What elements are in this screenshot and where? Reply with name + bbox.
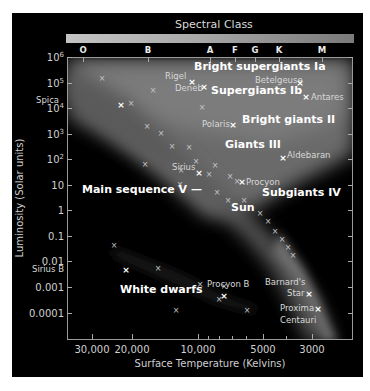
spectral-class-tick — [148, 57, 149, 62]
x-minor-tick — [232, 336, 233, 339]
star-label: Rigel — [165, 71, 186, 81]
y-tick — [67, 261, 72, 262]
y-tick — [67, 287, 72, 288]
y-tick-right — [348, 159, 353, 160]
star-label: Deneb — [175, 83, 203, 93]
star-label: Barnard's — [265, 277, 306, 287]
spectral-class-o: O — [79, 45, 86, 55]
y-tick — [67, 134, 72, 135]
luminosity-class-label: White dwarfs — [120, 283, 203, 296]
x-tick-label: 3000 — [299, 344, 324, 355]
star-label: Spica — [36, 95, 59, 105]
x-tick-label: 10,000 — [181, 344, 216, 355]
spectral-class-k: K — [276, 45, 283, 55]
star-marker-icon: × — [290, 252, 297, 260]
star-marker-icon: × — [155, 265, 162, 273]
x-tick — [132, 334, 133, 339]
y-tick — [67, 108, 72, 109]
star-marker-icon: × — [238, 178, 246, 186]
x-minor-tick — [219, 336, 220, 339]
star-marker-icon: × — [265, 218, 272, 226]
star-marker-icon: × — [257, 210, 264, 218]
star-marker-icon: × — [302, 93, 310, 101]
y-tick-right — [348, 108, 353, 109]
star-marker-icon: × — [212, 162, 219, 170]
y-tick-label: 105 — [47, 77, 64, 89]
y-tick — [67, 313, 72, 314]
x-axis-title: Surface Temperature (Kelvins) — [135, 358, 286, 369]
star-marker-icon: × — [128, 100, 135, 108]
y-tick — [67, 236, 72, 237]
star-label: Antares — [311, 92, 344, 102]
star-marker-icon: × — [229, 121, 237, 129]
spectral-class-a: A — [207, 45, 214, 55]
star-marker-icon: × — [111, 242, 118, 250]
y-tick — [67, 83, 72, 84]
star-marker-icon: × — [150, 87, 157, 95]
star-marker-icon: × — [206, 171, 213, 179]
star-marker-icon: × — [117, 101, 125, 109]
x-tick-label: 30,000 — [75, 344, 110, 355]
x-minor-tick — [286, 336, 287, 339]
y-tick-label: 0.001 — [35, 282, 64, 293]
star-marker-icon: × — [195, 169, 203, 177]
star-label: Centauri — [280, 315, 316, 325]
x-minor-tick — [246, 336, 247, 339]
star-label: Sirius B — [32, 264, 64, 274]
star-marker-icon: × — [272, 228, 279, 236]
star-marker-icon: × — [99, 75, 106, 83]
spectral-class-b: B — [145, 45, 151, 55]
x-tick — [312, 334, 313, 339]
star-marker-icon: × — [169, 143, 176, 151]
y-tick — [67, 185, 72, 186]
star-marker-icon: × — [214, 189, 221, 197]
luminosity-class-label: Giants III — [225, 138, 281, 151]
star-label: Aldebaran — [287, 150, 331, 160]
x-tick-label: 5000 — [250, 344, 275, 355]
star-label: Star — [287, 288, 304, 298]
x-tick — [198, 334, 199, 339]
spectral-class-title: Spectral Class — [175, 18, 253, 31]
star-marker-icon: × — [200, 83, 208, 91]
star-marker-icon: × — [305, 290, 313, 298]
x-tick-label: 20,000 — [115, 344, 150, 355]
y-tick — [67, 159, 72, 160]
star-marker-icon: × — [227, 173, 234, 181]
star-marker-icon: × — [142, 161, 149, 169]
star-marker-icon: × — [199, 104, 206, 112]
luminosity-class-label: Supergiants Ib — [211, 84, 302, 97]
y-tick-label: 1 — [58, 205, 64, 216]
x-minor-tick — [208, 336, 209, 339]
y-axis-title: Luminosity (Solar units) — [14, 139, 25, 258]
y-tick-label: 106 — [47, 51, 64, 63]
star-marker-icon: × — [279, 154, 287, 162]
y-tick-right — [348, 83, 353, 84]
spectral-color-bar — [66, 34, 354, 43]
star-label: Polaris — [202, 119, 230, 129]
spectral-class-m: M — [318, 45, 326, 55]
y-tick-label: 0.1 — [48, 231, 64, 242]
y-tick-right — [348, 287, 353, 288]
y-tick-right — [348, 236, 353, 237]
star-marker-icon: × — [244, 307, 251, 315]
star-marker-icon: × — [158, 130, 165, 138]
luminosity-class-label: Bright giants II — [242, 113, 335, 126]
luminosity-class-label: Subgiants IV — [262, 186, 341, 199]
y-tick-right — [348, 313, 353, 314]
y-tick-right — [348, 185, 353, 186]
x-tick — [263, 334, 264, 339]
y-tick-label: 103 — [47, 128, 64, 140]
y-tick-right — [348, 134, 353, 135]
y-tick — [67, 210, 72, 211]
star-marker-icon: × — [220, 292, 228, 300]
luminosity-class-label: Sun — [231, 201, 255, 214]
star-marker-icon: × — [122, 266, 130, 274]
y-tick-right — [348, 261, 353, 262]
star-label: Procyon B — [207, 279, 249, 289]
star-label: Proxima — [280, 303, 314, 313]
y-tick-label: 102 — [47, 153, 64, 165]
luminosity-class-label: Bright supergiants Ia — [194, 60, 326, 73]
y-tick-label: 0.0001 — [29, 308, 64, 319]
y-tick-label: 10 — [51, 180, 64, 191]
star-marker-icon: × — [186, 144, 193, 152]
